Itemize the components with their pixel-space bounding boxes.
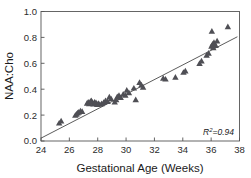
- y-axis-title: NAA:Cho: [3, 52, 15, 100]
- x-tick-label-30: 30: [121, 144, 132, 155]
- y-tick-label-1.0: 1.0: [24, 6, 37, 17]
- chart-figure: 2426283032343638 0.00.20.40.60.81.0 Gest…: [0, 0, 251, 178]
- x-tick-label-38: 38: [234, 144, 245, 155]
- y-tick-label-0.4: 0.4: [24, 84, 37, 95]
- y-tick-label-0.2: 0.2: [24, 110, 37, 121]
- x-tick-label-24: 24: [36, 144, 47, 155]
- y-tick-label-0.6: 0.6: [24, 58, 37, 69]
- y-tick-label-0.0: 0.0: [24, 135, 37, 146]
- x-tick-label-36: 36: [206, 144, 217, 155]
- x-axis-title: Gestational Age (Weeks): [77, 162, 204, 174]
- x-tick-label-26: 26: [64, 144, 75, 155]
- scatter-plot-svg: 2426283032343638 0.00.20.40.60.81.0 Gest…: [0, 0, 251, 178]
- y-tick-label-0.8: 0.8: [24, 32, 37, 43]
- x-tick-label-28: 28: [92, 144, 103, 155]
- x-tick-label-34: 34: [177, 144, 188, 155]
- x-tick-label-32: 32: [149, 144, 160, 155]
- r-squared-annotation: R2=0.94: [203, 127, 234, 137]
